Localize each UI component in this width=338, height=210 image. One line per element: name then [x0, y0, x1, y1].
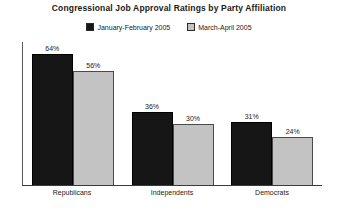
legend-entry-series-0: January-February 2005: [86, 23, 170, 31]
legend-label-series-1: March-April 2005: [198, 24, 251, 31]
bar-value-label: 24%: [272, 128, 313, 135]
bar-series-1: [272, 137, 313, 186]
bar-series-0: [231, 122, 272, 186]
category-label-republicans: Republicans: [22, 189, 122, 196]
bar-groups: 64% 56% 36% 30%: [23, 42, 322, 186]
category-label-independents: Independents: [122, 189, 222, 196]
legend-swatch-icon-series-1: [187, 23, 195, 31]
plot-area: 64% 56% 36% 30%: [22, 42, 322, 186]
bar-wrap: 64%: [32, 42, 73, 186]
x-axis-line: [22, 185, 322, 186]
bar-wrap: 30%: [173, 42, 214, 186]
chart-legend: January-February 2005 March-April 2005: [0, 23, 338, 31]
bar-value-label: 31%: [231, 113, 272, 120]
legend-entry-series-1: March-April 2005: [187, 23, 251, 31]
bar-value-label: 30%: [173, 115, 214, 122]
bar-wrap: 24%: [272, 42, 313, 186]
bar-wrap: 56%: [73, 42, 114, 186]
chart-title: Congressional Job Approval Ratings by Pa…: [0, 3, 338, 13]
bar-value-label: 56%: [73, 62, 114, 69]
bar-wrap: 36%: [132, 42, 173, 186]
bar-series-0: [132, 112, 173, 186]
bar-value-label: 36%: [132, 103, 173, 110]
bar-group-democrats: 31% 24%: [222, 42, 322, 186]
category-axis-labels: Republicans Independents Democrats: [22, 189, 322, 196]
bar-series-1: [173, 124, 214, 186]
legend-swatch-icon-series-0: [86, 23, 94, 31]
bar-value-label: 64%: [32, 45, 73, 52]
bar-group-independents: 36% 30%: [123, 42, 223, 186]
bar-series-1: [73, 71, 114, 186]
bar-group-republicans: 64% 56%: [23, 42, 123, 186]
chart-container: Congressional Job Approval Ratings by Pa…: [0, 0, 338, 210]
bar-wrap: 31%: [231, 42, 272, 186]
legend-label-series-0: January-February 2005: [97, 24, 170, 31]
category-label-democrats: Democrats: [222, 189, 322, 196]
bar-series-0: [32, 54, 73, 186]
